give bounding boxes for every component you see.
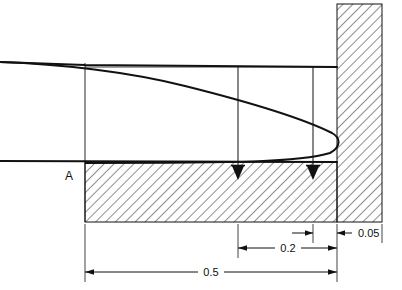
dimension-0-2-label: 0.2 — [280, 242, 295, 254]
diagram-canvas: A 0.05 0.2 — [0, 0, 402, 290]
dimension-0-2: 0.2 — [238, 241, 337, 255]
hatched-base-region — [85, 162, 337, 222]
dimension-0-5: 0.5 — [85, 265, 337, 279]
dimension-0-05: 0.05 — [337, 227, 379, 239]
dimension-tick-small — [292, 230, 313, 235]
hatched-wall-block — [337, 4, 382, 222]
point-a-label: A — [65, 169, 73, 183]
cross-section-figure: A 0.05 0.2 — [0, 0, 402, 290]
separation-bubble-curve — [0, 62, 339, 163]
dimension-0-05-label: 0.05 — [358, 227, 379, 239]
dimension-0-5-label: 0.5 — [203, 266, 218, 278]
